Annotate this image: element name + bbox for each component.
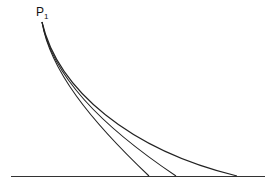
- curves-diagram: [0, 0, 278, 188]
- curve-1: [42, 22, 149, 176]
- curve-3: [42, 22, 237, 176]
- curve-2: [42, 22, 176, 176]
